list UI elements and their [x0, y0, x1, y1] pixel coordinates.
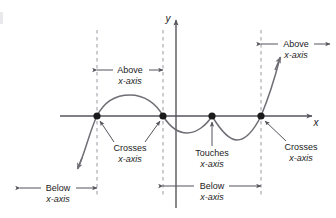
y-axis-label: y — [165, 13, 172, 24]
label-above-left-line1: Above — [117, 65, 143, 75]
curve-arrow-left — [78, 158, 83, 169]
label-below-left-line1: Below — [46, 183, 71, 193]
label-above-left-line2: x-axis — [117, 76, 142, 86]
label-above-right-line2: x-axis — [283, 50, 308, 60]
label-crosses-left-line2: x-axis — [117, 154, 142, 164]
leader-crosses-right — [265, 121, 286, 141]
label-below-left-line2: x-axis — [45, 194, 70, 204]
label-touches-line1: Touches — [195, 148, 229, 158]
label-crosses-right-line2: x-axis — [288, 153, 313, 163]
label-touches-line2: x-axis — [199, 159, 224, 169]
root-point-crosses-3 — [257, 112, 264, 119]
graph-canvas: x y Above x-axis Above x-axis Below x-ax… — [0, 0, 336, 218]
polynomial-curve — [78, 58, 280, 168]
label-below-right-line1: Below — [200, 181, 225, 191]
label-crosses-right-line1: Crosses — [284, 142, 318, 152]
root-point-touches — [208, 112, 215, 119]
root-point-crosses-1 — [93, 112, 100, 119]
leader-crosses-left-b — [145, 121, 160, 142]
label-crosses-left-line1: Crosses — [113, 143, 147, 153]
label-above-right-line1: Above — [283, 39, 309, 49]
root-point-crosses-2 — [159, 112, 166, 119]
label-below-right-line2: x-axis — [199, 192, 224, 202]
page-edge-artifact — [0, 12, 3, 24]
polynomial-graph-figure: x y Above x-axis Above x-axis Below x-ax… — [0, 0, 336, 218]
leader-crosses-left-a — [100, 121, 114, 142]
x-axis-label: x — [313, 117, 320, 128]
